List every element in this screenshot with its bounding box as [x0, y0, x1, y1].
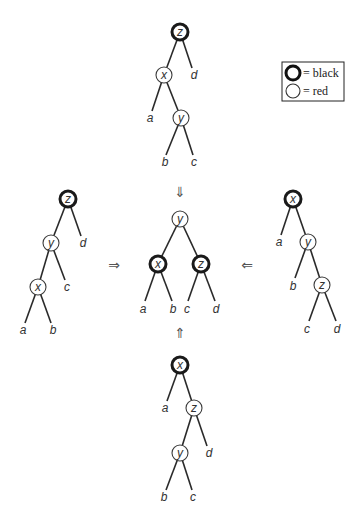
node-label: x	[154, 257, 162, 271]
tree-top: z x y d a b c	[147, 24, 198, 169]
leaf-label: c	[184, 302, 190, 316]
red-black-tree-diagram: z x y d a b c = black = red ⇓ ⇒ ⇐ ⇑ z y …	[0, 0, 362, 528]
tree-bottom: x z y a d b c	[161, 357, 213, 504]
leaf-label: d	[334, 322, 341, 336]
node-label: z	[318, 278, 325, 292]
leaf-label: a	[276, 235, 283, 249]
node-label: z	[190, 401, 197, 415]
down-arrow-icon: ⇓	[174, 184, 186, 200]
node-label: z	[176, 25, 183, 39]
tree-center: y x z a b c d	[140, 211, 220, 316]
leaf-label: b	[162, 155, 169, 169]
black-node-swatch-icon	[286, 66, 300, 80]
leaf-label: c	[190, 490, 196, 504]
leaf-label: b	[50, 323, 57, 337]
node-label: x	[34, 280, 42, 294]
leaf-label: d	[191, 68, 198, 82]
right-arrow-icon: ⇒	[108, 257, 120, 273]
leaf-label: d	[206, 446, 213, 460]
left-arrow-icon: ⇐	[241, 257, 253, 273]
node-label: y	[176, 212, 184, 226]
legend-black-label: = black	[303, 66, 339, 80]
up-arrow-icon: ⇑	[174, 325, 186, 341]
red-node-swatch-icon	[286, 84, 300, 98]
leaf-label: a	[162, 401, 169, 415]
leaf-label: d	[213, 302, 220, 316]
node-label: x	[176, 358, 184, 372]
leaf-label: a	[20, 323, 27, 337]
leaf-label: a	[147, 111, 154, 125]
node-label: x	[160, 68, 168, 82]
node-label: z	[197, 257, 204, 271]
leaf-label: d	[80, 236, 87, 250]
node-label: y	[304, 235, 312, 249]
node-label: y	[47, 236, 55, 250]
leaf-label: b	[170, 302, 177, 316]
tree-left: z y x d c a b	[20, 191, 87, 337]
node-label: x	[289, 192, 297, 206]
leaf-label: c	[191, 155, 197, 169]
tree-right: x y z a b c d	[276, 191, 341, 336]
legend: = black = red	[282, 62, 344, 101]
legend-red-label: = red	[303, 84, 328, 98]
leaf-label: c	[304, 322, 310, 336]
node-label: y	[176, 446, 184, 460]
node-label: y	[177, 111, 185, 125]
leaf-label: b	[161, 490, 168, 504]
leaf-label: a	[140, 302, 147, 316]
leaf-label: b	[290, 279, 297, 293]
leaf-label: c	[64, 280, 70, 294]
node-label: z	[64, 192, 71, 206]
